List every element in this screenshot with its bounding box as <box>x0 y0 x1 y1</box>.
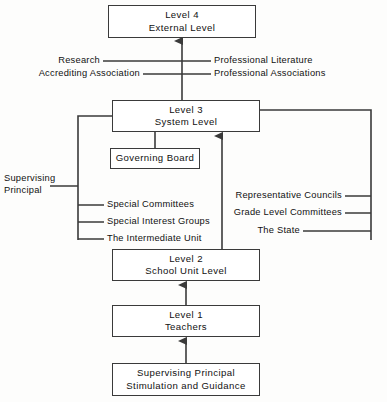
label-representative-councils: Representative Councils <box>222 190 342 200</box>
label-the-intermediate-unit: The Intermediate Unit <box>107 233 202 243</box>
label-accrediting-association: Accrediting Association <box>8 68 140 78</box>
bottom-box-line-1: Supervising Principal <box>137 367 235 379</box>
right-bus-line <box>260 110 371 240</box>
node-supervising-principal-stimulation-guidance: Supervising Principal Stimulation and Gu… <box>112 363 260 396</box>
label-grade-level-committees: Grade Level Committees <box>222 207 342 217</box>
bottom-box-line-2: Stimulation and Guidance <box>126 380 245 392</box>
level-4-line-2: External Level <box>149 22 215 34</box>
label-the-state: The State <box>222 225 300 235</box>
label-research: Research <box>8 55 100 65</box>
node-level-4-external-level: Level 4 External Level <box>108 5 256 38</box>
label-professional-associations: Professional Associations <box>214 68 326 78</box>
level-3-line-1: Level 3 <box>169 104 203 116</box>
node-level-3-system-level: Level 3 System Level <box>112 100 260 132</box>
governing-board-label: Governing Board <box>116 152 195 164</box>
level-1-line-1: Level 1 <box>169 309 203 321</box>
level-2-line-1: Level 2 <box>169 253 203 265</box>
label-special-committees: Special Committees <box>107 199 194 209</box>
level-3-line-2: System Level <box>155 116 217 128</box>
node-level-2-school-unit-level: Level 2 School Unit Level <box>112 249 260 281</box>
label-supervising-principal-left: Supervising Principal <box>4 172 55 196</box>
node-level-1-teachers: Level 1 Teachers <box>112 305 260 337</box>
level-1-line-2: Teachers <box>165 321 207 333</box>
label-special-interest-groups: Special Interest Groups <box>107 216 210 226</box>
supervising-principal-line-1: Supervising <box>4 172 55 184</box>
node-governing-board: Governing Board <box>110 148 200 169</box>
label-professional-literature: Professional Literature <box>214 55 313 65</box>
level-2-line-2: School Unit Level <box>145 265 226 277</box>
organizational-hierarchy-diagram: Level 4 External Level Research Accredit… <box>0 0 387 402</box>
level-4-line-1: Level 4 <box>165 9 199 21</box>
supervising-principal-line-2: Principal <box>4 184 55 196</box>
